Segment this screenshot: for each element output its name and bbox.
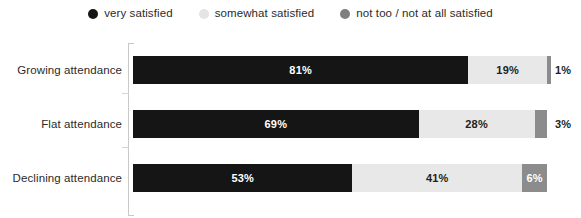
category-axis-bottom-cap bbox=[128, 215, 134, 216]
bar-segment-value: 41% bbox=[426, 173, 449, 184]
bar-segment-very-satisfied: 53% bbox=[133, 164, 352, 192]
category-axis-top-cap bbox=[128, 43, 134, 44]
category-axis-tick bbox=[122, 147, 129, 148]
bar-segment-value: 6% bbox=[526, 173, 542, 184]
legend-item-very-satisfied: very satisfied bbox=[88, 8, 173, 20]
bar-segment-very-satisfied: 81% bbox=[133, 56, 468, 84]
chart-row: Flat attendance 69% 28% 3% bbox=[0, 110, 581, 138]
category-label: Declining attendance bbox=[13, 164, 122, 192]
bar-segment-value-outside: 1% bbox=[555, 56, 571, 84]
bar-segment-value-outside: 3% bbox=[555, 110, 571, 138]
chart-row: Growing attendance 81% 19% 1% bbox=[0, 56, 581, 84]
stacked-bar-chart: Growing attendance 81% 19% 1% Flat atten… bbox=[0, 38, 581, 218]
legend-swatch-circle-icon bbox=[199, 9, 209, 19]
bar-segment-value: 19% bbox=[496, 65, 519, 76]
legend-item-somewhat-satisfied: somewhat satisfied bbox=[199, 8, 315, 20]
chart-row: Declining attendance 53% 41% 6% bbox=[0, 164, 581, 192]
chart-legend: very satisfied somewhat satisfied not to… bbox=[0, 8, 581, 20]
category-axis-tick bbox=[122, 93, 129, 94]
legend-swatch-circle-icon bbox=[340, 9, 350, 19]
legend-swatch-circle-icon bbox=[88, 9, 98, 19]
legend-item-not-too-satisfied: not too / not at all satisfied bbox=[340, 8, 493, 20]
category-label: Growing attendance bbox=[17, 56, 122, 84]
bar-segment-not-too-satisfied bbox=[535, 110, 547, 138]
bar-segment-somewhat-satisfied: 28% bbox=[419, 110, 535, 138]
bar-segment-not-too-satisfied bbox=[547, 56, 551, 84]
legend-label: somewhat satisfied bbox=[215, 8, 315, 20]
legend-label: not too / not at all satisfied bbox=[356, 8, 493, 20]
stacked-bar: 69% 28% bbox=[133, 110, 547, 138]
bar-segment-somewhat-satisfied: 41% bbox=[352, 164, 522, 192]
category-label: Flat attendance bbox=[41, 110, 122, 138]
legend-label: very satisfied bbox=[104, 8, 173, 20]
bar-segment-value: 53% bbox=[231, 173, 254, 184]
bar-segment-not-too-satisfied: 6% bbox=[522, 164, 547, 192]
bar-segment-value: 28% bbox=[465, 119, 488, 130]
stacked-bar: 81% 19% bbox=[133, 56, 551, 84]
bar-segment-value: 69% bbox=[265, 119, 288, 130]
stacked-bar: 53% 41% 6% bbox=[133, 164, 547, 192]
bar-segment-somewhat-satisfied: 19% bbox=[468, 56, 547, 84]
bar-segment-very-satisfied: 69% bbox=[133, 110, 419, 138]
bar-segment-value: 81% bbox=[289, 65, 312, 76]
